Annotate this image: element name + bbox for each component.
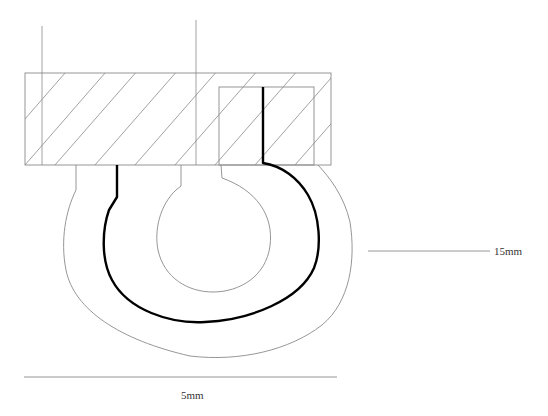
hatched-base-block — [0, 62, 385, 165]
outer-body-contour — [64, 165, 353, 358]
thick-path-outline — [104, 87, 319, 322]
width-dimension-label: 5mm — [181, 389, 204, 401]
diagram-canvas — [0, 0, 548, 416]
height-dimension-label: 15mm — [494, 245, 522, 257]
inner-circular-hole — [157, 165, 271, 292]
